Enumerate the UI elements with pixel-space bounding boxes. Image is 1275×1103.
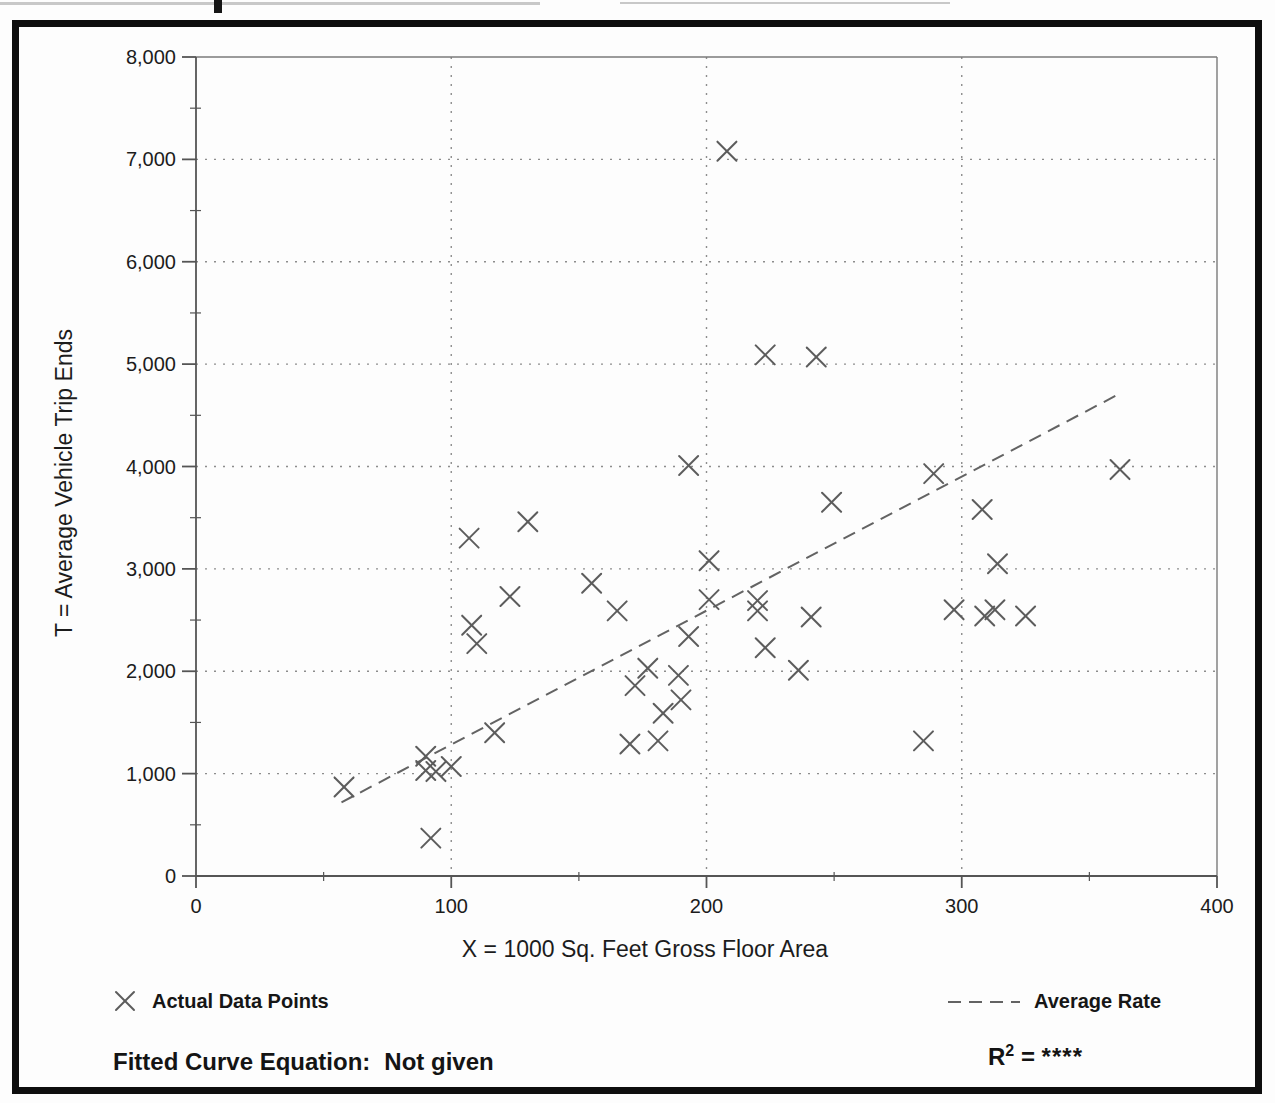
x-tick-label: 200 (690, 895, 723, 917)
y-tick-label: 6,000 (126, 251, 176, 273)
r-squared-sup: 2 (1005, 1042, 1014, 1059)
legend-label-actual-data-points: Actual Data Points (152, 990, 329, 1013)
r-squared-annotation: R2 = **** (988, 1042, 1083, 1071)
y-tick-label: 2,000 (126, 660, 176, 682)
x-axis-title: X = 1000 Sq. Feet Gross Floor Area (462, 936, 828, 962)
x-tick-label: 400 (1200, 895, 1233, 917)
legend-label-average-rate: Average Rate (1034, 990, 1161, 1013)
x-tick-label: 100 (435, 895, 468, 917)
average-rate-line (341, 395, 1117, 802)
y-tick-label: 4,000 (126, 456, 176, 478)
y-tick-label: 1,000 (126, 763, 176, 785)
y-axis-title: T = Average Vehicle Trip Ends (51, 329, 77, 637)
fitted-curve-equation: Fitted Curve Equation:Not given (113, 1048, 494, 1076)
x-tick-label: 0 (190, 895, 201, 917)
r-squared-base: R (988, 1043, 1005, 1070)
y-tick-label: 3,000 (126, 558, 176, 580)
y-tick-label: 5,000 (126, 353, 176, 375)
x-tick-label: 300 (945, 895, 978, 917)
r-squared-equals: = (1021, 1043, 1035, 1070)
y-tick-label: 7,000 (126, 148, 176, 170)
r-squared-value: **** (1042, 1043, 1083, 1070)
fitted-curve-equation-value: Not given (384, 1048, 493, 1075)
y-tick-label: 8,000 (126, 46, 176, 68)
legend-item-actual-data-points: Actual Data Points (112, 988, 329, 1014)
legend-item-average-rate: Average Rate (948, 990, 1161, 1013)
y-tick-label: 0 (165, 865, 176, 887)
dashed-line-icon (948, 999, 1020, 1005)
fitted-curve-equation-label: Fitted Curve Equation: (113, 1048, 370, 1075)
page: T = Average Vehicle Trip Ends X = 1000 S… (0, 0, 1275, 1103)
scatter-plot: T = Average Vehicle Trip Ends X = 1000 S… (0, 0, 1275, 1103)
x-marker-icon (112, 988, 138, 1014)
